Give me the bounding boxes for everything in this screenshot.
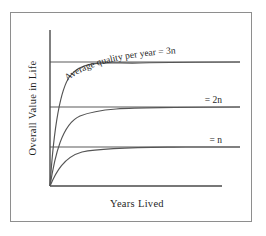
curve-label-2n: = 2n (205, 95, 222, 105)
chart-canvas: Average quality per year = 3n = 2n = n O… (0, 0, 266, 236)
curve-label-n: = n (210, 135, 223, 145)
curve-label-3n-text: Average quality per year = 3n (63, 45, 176, 82)
x-axis-label: Years Lived (110, 198, 164, 209)
curve-3n (50, 62, 240, 186)
curve-n (50, 147, 240, 186)
figure-container: Average quality per year = 3n = 2n = n O… (0, 0, 266, 236)
y-axis-label: Overall Value in Life (27, 60, 38, 155)
curve-label-3n: Average quality per year = 3n (63, 45, 176, 82)
